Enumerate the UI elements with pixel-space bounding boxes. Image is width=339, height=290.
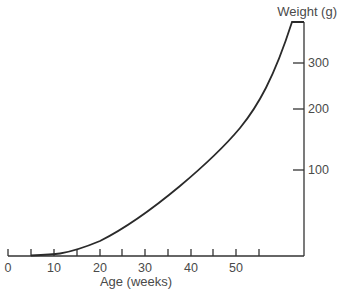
x-tick-label: 10 [47,261,61,275]
y-tick-label: 200 [308,102,329,116]
x-tick-label: 30 [138,261,152,275]
y-axis [293,22,304,256]
x-tick-label: 20 [93,261,107,275]
weight-curve [31,22,304,256]
x-tick-label: 0 [5,261,12,275]
y-tick-label: 300 [308,56,329,70]
x-tick-label: 50 [229,261,243,275]
x-tick-label: 40 [184,261,198,275]
weight-age-chart: 0 10 20 30 40 50 Age (weeks) 300 200 100… [0,0,339,290]
y-axis-title: Weight (g) [277,4,337,19]
x-axis-title: Age (weeks) [100,274,172,289]
y-tick-label: 100 [308,163,329,177]
